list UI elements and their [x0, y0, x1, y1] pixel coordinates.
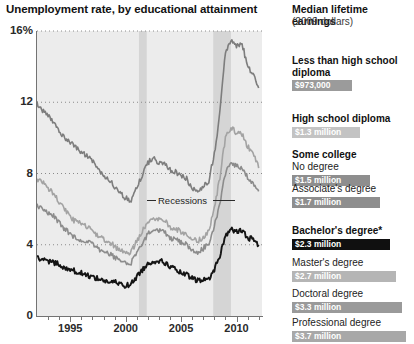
x-tick	[170, 316, 171, 320]
y-tick-label: 8	[27, 168, 33, 179]
earnings-item: Associate's degree$1.7 million	[292, 183, 414, 208]
chart-title: Unemployment rate, by educational attain…	[6, 3, 257, 15]
x-tick	[81, 316, 82, 320]
y-tick-label: 12	[20, 96, 33, 107]
earnings-item: Bachelor's degree*$2.3 million	[292, 225, 414, 250]
earnings-item: Professional degree$3.7 million	[292, 317, 414, 342]
x-tick	[59, 316, 60, 320]
earnings-item-sub: Doctoral degree	[292, 288, 414, 300]
earnings-bar-value: $2.3 million	[295, 239, 341, 250]
earnings-bar: $1.3 million	[292, 127, 360, 138]
recessions-annotation: Recessions	[158, 195, 207, 206]
x-tick	[104, 316, 105, 320]
recessions-leader-right	[213, 200, 235, 201]
earnings-bar-value: $973,000	[295, 80, 330, 91]
earnings-item-head: Some college	[292, 149, 414, 161]
recession-band	[213, 31, 231, 316]
earnings-bar: $973,000	[292, 80, 352, 91]
x-tick	[259, 316, 260, 320]
recessions-leader-left	[147, 200, 156, 201]
y-tick-label: 4	[27, 239, 33, 250]
x-tick	[248, 316, 249, 320]
x-tick-label: 2010	[224, 322, 248, 334]
earnings-item: High school diploma$1.3 million	[292, 113, 414, 138]
x-tick	[214, 316, 215, 320]
x-tick-label: 2000	[113, 322, 137, 334]
infographic-root: Unemployment rate, by educational attain…	[0, 0, 414, 344]
earnings-item: Doctoral degree$3.3 million	[292, 288, 414, 313]
x-tick	[192, 316, 193, 320]
x-tick-label: 1995	[58, 322, 82, 334]
earnings-item: Less than high schooldiploma$973,000	[292, 55, 414, 91]
earnings-item-sub: Master's degree	[292, 257, 414, 269]
earnings-bar: $2.3 million	[292, 239, 390, 250]
earnings-item-head-line2: diploma	[292, 67, 414, 79]
earnings-bar: $3.3 million	[292, 302, 402, 313]
y-tick-label: 16%	[10, 25, 33, 36]
x-tick	[137, 316, 138, 320]
x-tick-label: 2005	[169, 322, 193, 334]
earnings-bar-value: $3.3 million	[295, 302, 341, 313]
earnings-bar: $2.7 million	[292, 271, 396, 282]
earnings-item: Master's degree$2.7 million	[292, 257, 414, 282]
earnings-bar-value: $1.7 million	[295, 197, 341, 208]
y-axis-labels: 0481216%	[0, 0, 33, 344]
plot-area	[37, 31, 262, 316]
earnings-item-head: High school diploma	[292, 113, 414, 125]
earnings-bar-value: $1.3 million	[295, 127, 341, 138]
earnings-item-sub: No degree	[292, 161, 414, 173]
y-tick-label: 0	[27, 310, 33, 321]
x-tick	[115, 316, 116, 320]
earnings-panel-subtitle: (2009 dollars)	[292, 16, 353, 27]
earnings-item-sub: Professional degree	[292, 317, 414, 329]
x-tick	[225, 316, 226, 320]
earnings-item: Some collegeNo degree$1.5 million	[292, 149, 414, 186]
earnings-panel: Median lifetime earnings (2009 dollars) …	[292, 0, 414, 344]
x-tick	[48, 316, 49, 320]
earnings-bar: $1.7 million	[292, 197, 380, 208]
x-tick	[159, 316, 160, 320]
earnings-bar: $3.7 million	[292, 331, 406, 342]
earnings-item-head: Bachelor's degree*	[292, 225, 414, 237]
x-tick	[203, 316, 204, 320]
earnings-bar-value: $3.7 million	[295, 331, 341, 342]
earnings-item-head: Less than high school	[292, 55, 414, 67]
y-axis-line	[36, 31, 37, 317]
series-lines	[37, 31, 262, 316]
x-tick	[148, 316, 149, 320]
earnings-item-sub: Associate's degree	[292, 183, 414, 195]
earnings-bar-value: $2.7 million	[295, 271, 341, 282]
x-tick	[92, 316, 93, 320]
